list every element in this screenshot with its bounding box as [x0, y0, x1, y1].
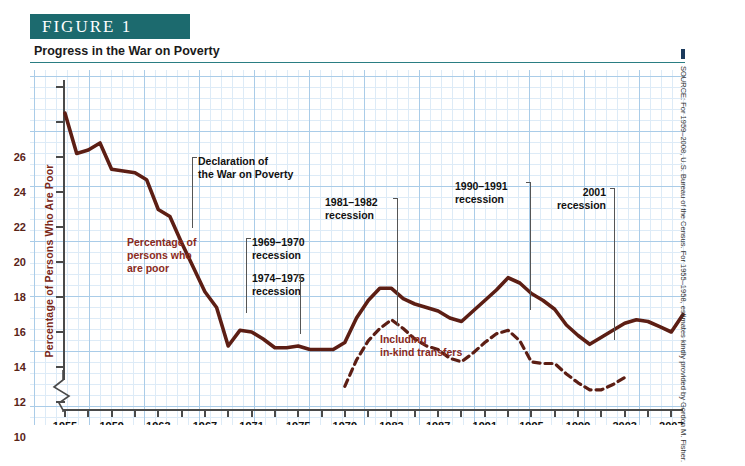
x-axis-tick: [600, 409, 602, 417]
annotation-line: recession: [546, 199, 606, 212]
x-axis-tick-label: 1971: [239, 420, 263, 425]
corner-marker: [681, 49, 685, 59]
y-axis-tick: [56, 296, 65, 298]
annotation-line: 1990–1991: [455, 180, 508, 193]
leader-line: [192, 157, 193, 228]
annotation-line: Declaration of: [198, 155, 293, 168]
x-axis-tick: [204, 409, 206, 417]
x-axis-tick: [297, 409, 299, 417]
x-axis-tick: [134, 409, 136, 417]
annotation-line: 1969–1970: [252, 236, 305, 249]
leader-line: [614, 188, 615, 340]
y-axis-tick: [56, 121, 65, 123]
annotation-inkind: Including in-kind transfers: [380, 333, 462, 359]
x-axis-tick: [64, 409, 66, 417]
annotation-line: 1981–1982: [325, 196, 378, 209]
leader-line: [397, 198, 398, 326]
x-axis-tick: [274, 409, 276, 417]
x-axis-tick: [624, 409, 626, 417]
y-axis-tick: [56, 261, 65, 263]
x-axis-tick: [577, 409, 579, 417]
annotation-line: recession: [325, 209, 378, 222]
y-axis-tick: [56, 401, 65, 403]
x-axis-tick: [554, 409, 556, 417]
x-axis-tick: [437, 409, 439, 417]
x-axis-tick: [507, 409, 509, 417]
leader-line: [530, 182, 531, 310]
y-axis-tick: [56, 366, 65, 368]
annotation-line: are poor: [127, 262, 196, 275]
x-axis-tick: [390, 409, 392, 417]
y-axis-tick-label: 24: [4, 186, 26, 198]
annotation-recession-1990: 1990–1991 recession: [455, 180, 508, 206]
annotation-line: in-kind transfers: [380, 346, 462, 359]
x-axis-tick: [647, 409, 649, 417]
y-axis-tick: [56, 226, 65, 228]
y-axis-tick-label: 20: [4, 256, 26, 268]
y-axis-tick: [56, 156, 65, 158]
figure-number-label: FIGURE 1: [30, 17, 132, 37]
x-axis-tick: [87, 409, 89, 417]
x-axis-tick: [414, 409, 416, 417]
annotation-recession-1974: 1974–1975 recession: [252, 272, 305, 298]
annotation-line: recession: [455, 193, 508, 206]
x-axis-tick-label: 1991: [473, 420, 497, 425]
x-axis-tick: [227, 409, 229, 417]
annotation-line: recession: [252, 249, 305, 262]
x-axis-tick: [251, 409, 253, 417]
chart-plot-area: Percentage of Persons Who Are Poor Perce…: [30, 70, 685, 425]
annotation-series-label: Percentage of persons who are poor: [127, 236, 196, 275]
figure-title: Progress in the War on Poverty: [34, 44, 220, 58]
x-axis-tick-label: 1963: [146, 420, 170, 425]
annotation-line: persons who: [127, 249, 196, 262]
y-axis-labels: 8101214161820222426: [0, 70, 26, 425]
y-axis-tick: [56, 191, 65, 193]
leader-line: [300, 274, 301, 334]
x-axis-tick-label: 1955: [53, 420, 77, 425]
y-axis-tick-label: 12: [4, 396, 26, 408]
annotation-declaration: Declaration of the War on Poverty: [198, 155, 293, 181]
annotation-line: the War on Poverty: [198, 168, 293, 181]
x-axis-tick-label: 1959: [99, 420, 123, 425]
annotation-recession-2001: 2001 recession: [546, 186, 606, 212]
y-axis-tick-label: 22: [4, 221, 26, 233]
x-axis-tick: [111, 409, 113, 417]
annotation-recession-1969: 1969–1970 recession: [252, 236, 305, 262]
x-axis-tick: [157, 409, 159, 417]
x-axis-tick: [321, 409, 323, 417]
y-axis-tick-label: 16: [4, 326, 26, 338]
x-axis-tick-label: 1999: [566, 420, 590, 425]
x-axis-tick-label: 1975: [286, 420, 310, 425]
chart-series-line: [65, 113, 683, 349]
x-axis-tick-label: 1979: [333, 420, 357, 425]
y-axis-tick-label: 14: [4, 361, 26, 373]
x-axis-tick-label: 1995: [519, 420, 543, 425]
y-axis-tick: [56, 86, 65, 88]
x-axis-tick: [181, 409, 183, 417]
x-axis-tick: [460, 409, 462, 417]
leader-line: [246, 238, 247, 313]
y-axis-tick-label: 26: [4, 151, 26, 163]
annotation-recession-1981: 1981–1982 recession: [325, 196, 378, 222]
title-divider: [30, 62, 685, 63]
x-axis-tick: [484, 409, 486, 417]
x-axis-tick-label: 1987: [426, 420, 450, 425]
x-axis-tick-label: 1967: [193, 420, 217, 425]
figure-panel: FIGURE 1 Progress in the War on Poverty …: [0, 0, 745, 466]
source-note: SOURCE: For 1959–2008, U.S. Bureau of th…: [679, 66, 688, 426]
y-axis-tick-label: 18: [4, 291, 26, 303]
x-axis-tick: [344, 409, 346, 417]
x-axis-tick-label: 2003: [612, 420, 636, 425]
figure-banner: FIGURE 1: [30, 14, 190, 39]
y-axis-tick-label: 10: [4, 431, 26, 443]
y-axis-tick: [56, 331, 65, 333]
annotation-line: Including: [380, 333, 462, 346]
annotation-line: Percentage of: [127, 236, 196, 249]
x-axis-tick: [367, 409, 369, 417]
x-axis-tick-label: 1983: [379, 420, 403, 425]
annotation-line: 2001: [546, 186, 606, 199]
x-axis-tick: [670, 409, 672, 417]
x-axis-tick: [530, 409, 532, 417]
annotation-line: recession: [252, 285, 305, 298]
